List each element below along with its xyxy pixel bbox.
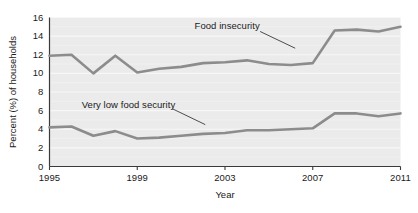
y-tick-label: 8	[0, 86, 44, 97]
series-label-very-low-food-security: Very low food security	[82, 99, 176, 110]
x-tick-label: 2003	[200, 172, 250, 183]
y-tick-label: 2	[0, 142, 44, 153]
y-tick-label: 10	[0, 67, 44, 78]
x-tick-label: 2011	[376, 172, 418, 183]
series-label-food-insecurity: Food insecurity	[195, 20, 260, 31]
y-tick-label: 6	[0, 105, 44, 116]
y-tick-label: 16	[0, 12, 44, 23]
y-tick-label: 14	[0, 30, 44, 41]
x-axis-title: Year	[195, 189, 255, 200]
chart-figure: Percent (%) of households 02468101214161…	[0, 0, 418, 213]
x-tick-label: 1995	[25, 172, 75, 183]
x-tick-label: 1999	[112, 172, 162, 183]
y-tick-label: 12	[0, 49, 44, 60]
x-tick-label: 2007	[288, 172, 338, 183]
y-tick-label: 0	[0, 161, 44, 172]
y-tick-label: 4	[0, 123, 44, 134]
